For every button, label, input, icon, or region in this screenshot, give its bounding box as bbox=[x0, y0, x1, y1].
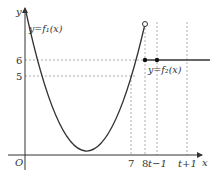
origin-label: O bbox=[15, 157, 23, 168]
x-tick-t-minus-1: t−1 bbox=[148, 158, 167, 169]
dashed-guides bbox=[25, 22, 187, 155]
label-f1: y=f₁(x) bbox=[28, 23, 63, 34]
graph-canvas: y x O 6 5 7 8 t−1 t+1 y=f₁(x) y=f₂(x) bbox=[0, 0, 212, 177]
filled-point-8-6 bbox=[143, 58, 147, 62]
y-tick-6: 6 bbox=[16, 55, 22, 66]
label-f2: y=f₂(x) bbox=[147, 64, 182, 75]
x-tick-7: 7 bbox=[128, 158, 134, 169]
y-axis-label: y bbox=[15, 6, 22, 17]
x-axis-label: x bbox=[202, 157, 208, 168]
y-tick-5: 5 bbox=[16, 71, 22, 82]
filled-point-t-minus-1 bbox=[155, 58, 159, 62]
x-tick-t-plus-1: t+1 bbox=[178, 158, 197, 169]
open-endpoint bbox=[143, 22, 148, 27]
